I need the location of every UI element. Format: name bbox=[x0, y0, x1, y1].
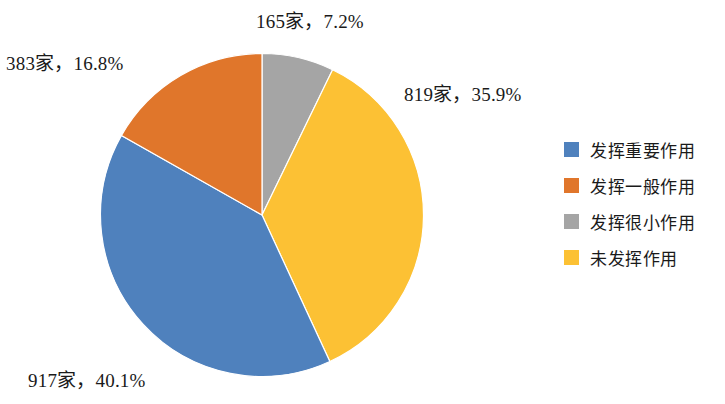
legend-item-very-small-role[interactable]: 发挥很小作用 bbox=[564, 203, 716, 239]
legend-color-swatch bbox=[564, 178, 579, 193]
pie-chart-figure: 165家，7.2% 819家，35.9% 383家，16.8% 917家，40.… bbox=[0, 0, 725, 404]
pie-chart-svg bbox=[100, 53, 424, 377]
pie-data-label-important-role: 917家，40.1% bbox=[28, 365, 146, 392]
legend-item-label: 发挥重要作用 bbox=[590, 137, 695, 162]
legend-item-no-role[interactable]: 未发挥作用 bbox=[564, 239, 716, 275]
legend-item-general-role[interactable]: 发挥一般作用 bbox=[564, 167, 716, 203]
pie-data-label-general-role: 383家，16.8% bbox=[6, 48, 124, 75]
legend-item-important-role[interactable]: 发挥重要作用 bbox=[564, 131, 716, 167]
legend-item-label: 发挥一般作用 bbox=[590, 173, 695, 198]
legend-item-label: 发挥很小作用 bbox=[590, 209, 695, 234]
pie-chart-plot-area bbox=[100, 53, 424, 377]
pie-data-label-no-role: 819家，35.9% bbox=[404, 79, 522, 106]
pie-data-label-very-small-role: 165家，7.2% bbox=[256, 6, 364, 33]
legend-color-swatch bbox=[564, 214, 579, 229]
chart-legend: 发挥重要作用发挥一般作用发挥很小作用未发挥作用 bbox=[564, 131, 716, 275]
legend-item-label: 未发挥作用 bbox=[590, 245, 678, 270]
pie-slice-group bbox=[101, 54, 424, 377]
legend-color-swatch bbox=[564, 250, 579, 265]
legend-color-swatch bbox=[564, 142, 579, 157]
